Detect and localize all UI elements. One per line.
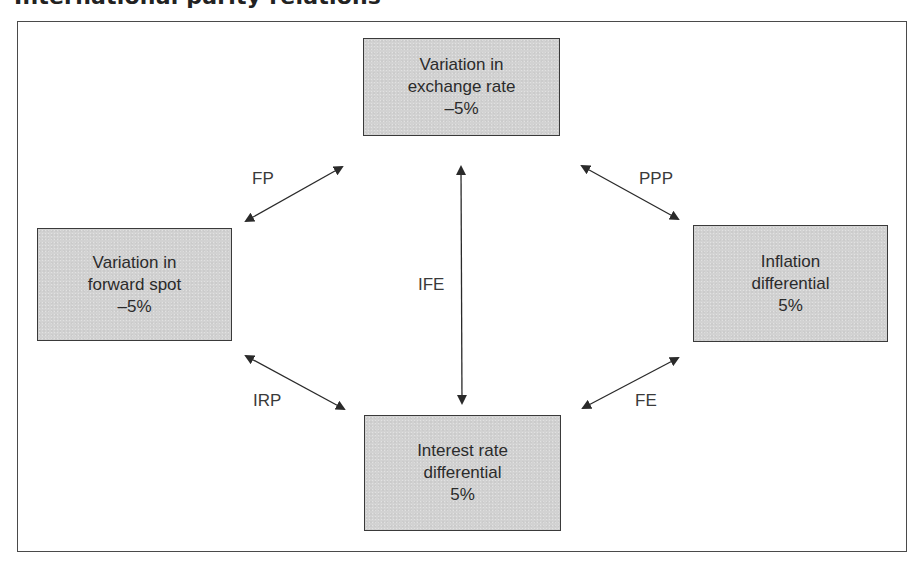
- node-exchange-value: –5%: [444, 98, 478, 120]
- node-interest-line2: differential: [423, 462, 501, 484]
- label-fe: FE: [635, 391, 657, 411]
- label-fp: FP: [252, 169, 274, 189]
- node-forward-line2: forward spot: [88, 274, 182, 296]
- node-inflation-differential: Inflation differential 5%: [693, 225, 888, 342]
- node-forward-line1: Variation in: [93, 252, 177, 274]
- node-exchange-rate: Variation in exchange rate –5%: [363, 38, 560, 136]
- label-irp: IRP: [253, 391, 281, 411]
- node-interest-line1: Interest rate: [417, 440, 508, 462]
- node-inflation-line2: differential: [751, 273, 829, 295]
- node-exchange-line1: Variation in: [420, 54, 504, 76]
- node-inflation-value: 5%: [778, 295, 803, 317]
- node-forward-spot: Variation in forward spot –5%: [37, 228, 232, 341]
- label-ppp: PPP: [639, 169, 673, 189]
- node-inflation-line1: Inflation: [761, 251, 821, 273]
- node-forward-value: –5%: [117, 296, 151, 318]
- fe-arrow: [583, 358, 678, 408]
- ife-arrow: [461, 167, 462, 403]
- node-interest-differential: Interest rate differential 5%: [364, 415, 561, 531]
- label-ife: IFE: [418, 275, 444, 295]
- node-exchange-line2: exchange rate: [408, 76, 516, 98]
- node-interest-value: 5%: [450, 484, 475, 506]
